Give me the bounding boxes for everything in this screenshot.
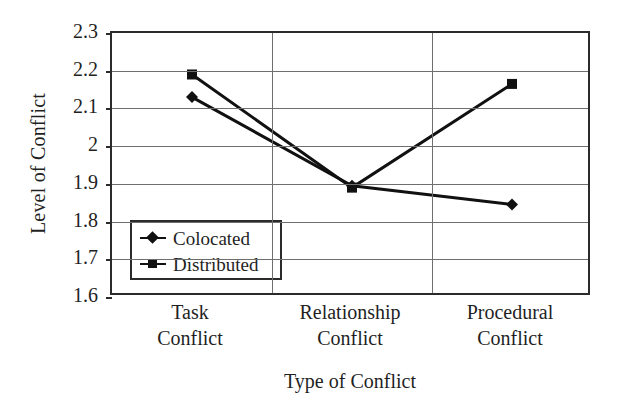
x-axis-tick-label: RelationshipConflict: [270, 300, 430, 351]
plot-area: Colocated Distributed: [110, 31, 590, 295]
x-axis-tick-label-line: Conflict: [110, 326, 270, 352]
gridline-horizontal: [112, 259, 588, 260]
data-point-diamond: [186, 91, 198, 103]
x-axis-tick-label-line: Task: [110, 300, 270, 326]
series-line-distributed: [192, 74, 512, 187]
y-axis-tick-mark: [106, 184, 112, 186]
gridline-horizontal: [112, 146, 588, 147]
y-axis-tick-mark: [106, 108, 112, 110]
x-axis-tick-label-line: Relationship: [270, 300, 430, 326]
x-axis-tick-label-line: Conflict: [430, 326, 590, 352]
y-axis-tick-label: 2: [40, 134, 98, 154]
y-axis-tick-label: 2.2: [40, 59, 98, 79]
diamond-marker-icon: [140, 230, 166, 246]
y-axis-tick-label: 1.8: [40, 210, 98, 230]
x-axis-tick-label: ProceduralConflict: [430, 300, 590, 351]
data-point-diamond: [506, 199, 518, 211]
chart-legend: Colocated Distributed: [130, 220, 282, 280]
gridline-vertical: [432, 33, 433, 293]
gridline-vertical: [272, 33, 273, 293]
chart-figure: Level of Conflict 2.32.22.121.91.81.71.6…: [0, 0, 620, 416]
legend-label-distributed: Distributed: [173, 255, 259, 274]
legend-entry-colocated: Colocated: [140, 225, 280, 251]
y-axis-tick-label: 2.1: [40, 96, 98, 116]
y-axis-tick-mark: [106, 33, 112, 35]
y-axis-tick-mark: [106, 146, 112, 148]
x-axis-tick-label: TaskConflict: [110, 300, 270, 351]
x-axis-tick-label-line: Conflict: [270, 326, 430, 352]
x-axis-tick-label-line: Procedural: [430, 300, 590, 326]
y-axis-tick-labels: 2.32.22.121.91.81.71.6: [40, 31, 104, 295]
gridline-horizontal: [112, 222, 588, 223]
gridline-horizontal: [112, 71, 588, 72]
y-axis-tick-label: 2.3: [40, 21, 98, 41]
y-axis-tick-label: 1.7: [40, 247, 98, 267]
y-axis-tick-mark: [106, 297, 112, 299]
y-axis-tick-mark: [106, 71, 112, 73]
legend-entry-distributed: Distributed: [140, 251, 280, 277]
y-axis-tick-label: 1.6: [40, 285, 98, 305]
x-axis-tick-labels: TaskConflictRelationshipConflictProcedur…: [110, 300, 590, 362]
gridline-horizontal: [112, 184, 588, 185]
y-axis-tick-mark: [106, 222, 112, 224]
x-axis-title: Type of Conflict: [110, 370, 590, 393]
gridline-horizontal: [112, 108, 588, 109]
legend-label-colocated: Colocated: [173, 229, 250, 248]
y-axis-tick-label: 1.9: [40, 172, 98, 192]
y-axis-tick-mark: [106, 259, 112, 261]
data-point-square: [507, 79, 517, 89]
